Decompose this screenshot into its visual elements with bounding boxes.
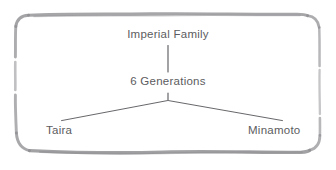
frame-edge-bottom [30, 150, 310, 152]
node-imperial-family: Imperial Family [127, 29, 209, 41]
connector-middle-to-leaf-right [169, 101, 283, 121]
frame-corner-top-right [308, 16, 320, 28]
node-minamoto: Minamoto [248, 125, 301, 137]
frame-corner-top-left [16, 15, 29, 26]
frame-corner-bottom-right [310, 136, 320, 151]
node-six-generations: 6 Generations [130, 76, 206, 88]
frame-edge-top [29, 14, 308, 16]
node-taira: Taira [46, 125, 72, 137]
diagram-canvas: Imperial Family 6 Generations Taira Mina… [0, 0, 336, 170]
connector-middle-to-leaf-left [62, 101, 168, 121]
frame-corner-bottom-left [16, 133, 29, 151]
